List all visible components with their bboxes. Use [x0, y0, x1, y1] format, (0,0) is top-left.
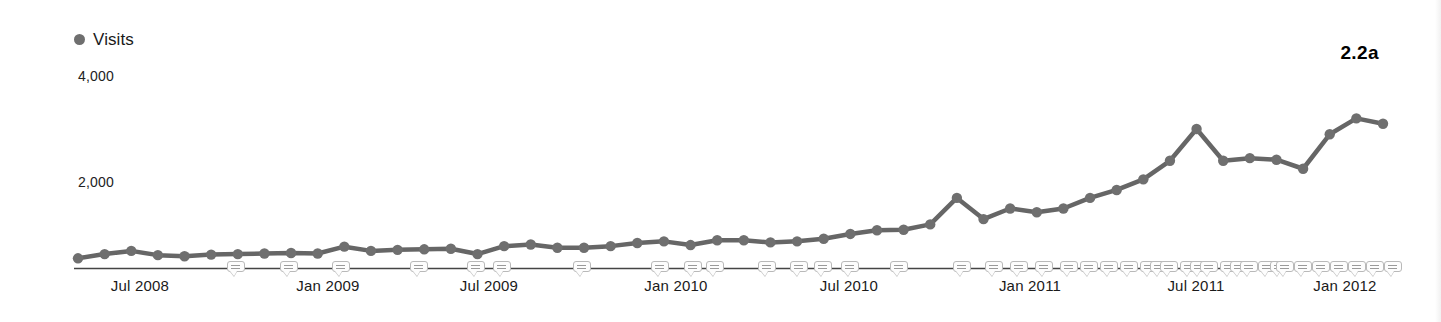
data-point[interactable] — [1378, 119, 1388, 129]
axis-annotation-marker[interactable] — [332, 261, 352, 276]
axis-annotation-marker[interactable] — [953, 261, 973, 276]
axis-annotation-marker[interactable] — [1240, 261, 1260, 276]
annotation-tail-icon — [817, 271, 824, 276]
data-point[interactable] — [765, 237, 775, 247]
annotation-tail-icon — [1123, 271, 1130, 276]
data-point[interactable] — [233, 249, 243, 259]
axis-annotation-marker[interactable] — [1312, 261, 1332, 276]
data-point[interactable] — [99, 249, 109, 259]
axis-annotation-marker[interactable] — [227, 261, 247, 276]
axis-annotation-marker[interactable] — [1366, 261, 1386, 276]
axis-annotation-marker[interactable] — [1060, 261, 1080, 276]
axis-annotation-marker[interactable] — [493, 261, 513, 276]
data-point[interactable] — [312, 248, 322, 258]
data-point[interactable] — [179, 251, 189, 261]
axis-annotation-marker[interactable] — [1080, 261, 1100, 276]
annotation-tail-icon — [1103, 271, 1110, 276]
axis-annotation-marker[interactable] — [467, 261, 487, 276]
axis-annotation-marker[interactable] — [1160, 261, 1180, 276]
data-point[interactable] — [1058, 203, 1068, 213]
data-point[interactable] — [153, 250, 163, 260]
data-point[interactable] — [819, 234, 829, 244]
data-point[interactable] — [1191, 124, 1201, 134]
axis-annotation-marker[interactable] — [1330, 261, 1350, 276]
axis-annotation-marker[interactable] — [1294, 261, 1314, 276]
data-point[interactable] — [392, 245, 402, 255]
axis-annotation-marker[interactable] — [1348, 261, 1368, 276]
data-point[interactable] — [526, 239, 536, 249]
data-point[interactable] — [978, 214, 988, 224]
annotation-tail-icon — [335, 271, 342, 276]
data-point[interactable] — [499, 241, 509, 251]
axis-annotation-marker[interactable] — [1010, 261, 1030, 276]
axis-annotation-marker[interactable] — [410, 261, 430, 276]
data-point[interactable] — [605, 241, 615, 251]
data-point[interactable] — [925, 219, 935, 229]
data-point[interactable] — [1325, 129, 1335, 139]
annotation-tail-icon — [1279, 271, 1286, 276]
data-point[interactable] — [126, 246, 136, 256]
data-point[interactable] — [872, 225, 882, 235]
data-point[interactable] — [1085, 193, 1095, 203]
data-point[interactable] — [1138, 174, 1148, 184]
data-point[interactable] — [579, 243, 589, 253]
data-point[interactable] — [1245, 153, 1255, 163]
axis-annotation-marker[interactable] — [814, 261, 834, 276]
data-point[interactable] — [206, 249, 216, 259]
x-axis-tick-jul-2010: Jul 2010 — [820, 277, 878, 294]
annotation-tail-icon — [1203, 271, 1210, 276]
annotation-tail-icon — [1223, 271, 1230, 276]
data-point[interactable] — [1351, 113, 1361, 123]
data-point[interactable] — [286, 248, 296, 258]
annotation-tail-icon — [893, 271, 900, 276]
data-point[interactable] — [685, 240, 695, 250]
data-point[interactable] — [1298, 164, 1308, 174]
axis-annotation-marker[interactable] — [1035, 261, 1055, 276]
data-point[interactable] — [1005, 203, 1015, 213]
data-point[interactable] — [1165, 156, 1175, 166]
data-point[interactable] — [898, 225, 908, 235]
axis-annotation-marker[interactable] — [280, 261, 300, 276]
visits-line-chart: Visits 2.2a 4,000 2,000 Jul 2008 Jan 200… — [0, 0, 1441, 322]
data-point[interactable] — [712, 235, 722, 245]
axis-annotation-marker[interactable] — [985, 261, 1005, 276]
axis-annotation-marker[interactable] — [1200, 261, 1220, 276]
axis-annotation-marker[interactable] — [1384, 261, 1404, 276]
data-point[interactable] — [1032, 207, 1042, 217]
axis-annotation-marker[interactable] — [573, 261, 593, 276]
x-axis-tick-jul-2008: Jul 2008 — [111, 277, 169, 294]
axis-annotation-marker[interactable] — [684, 261, 704, 276]
axis-annotation-marker[interactable] — [1120, 261, 1140, 276]
axis-annotation-marker[interactable] — [1100, 261, 1120, 276]
data-point[interactable] — [1218, 156, 1228, 166]
axis-annotation-marker[interactable] — [1276, 261, 1296, 276]
axis-annotation-marker[interactable] — [790, 261, 810, 276]
data-point[interactable] — [1111, 185, 1121, 195]
axis-annotation-marker[interactable] — [890, 261, 910, 276]
data-point[interactable] — [845, 229, 855, 239]
data-point[interactable] — [339, 241, 349, 251]
data-point[interactable] — [419, 244, 429, 254]
data-point[interactable] — [952, 193, 962, 203]
data-point[interactable] — [792, 236, 802, 246]
data-point[interactable] — [259, 248, 269, 258]
annotation-tail-icon — [654, 271, 661, 276]
annotation-tail-icon — [687, 271, 694, 276]
data-point[interactable] — [739, 235, 749, 245]
annotation-tail-icon — [956, 271, 963, 276]
data-point[interactable] — [472, 249, 482, 259]
axis-annotation-marker[interactable] — [758, 261, 778, 276]
axis-annotation-marker[interactable] — [706, 261, 726, 276]
data-point[interactable] — [632, 238, 642, 248]
annotation-tail-icon — [1193, 271, 1200, 276]
axis-annotation-marker[interactable] — [651, 261, 671, 276]
data-point[interactable] — [659, 236, 669, 246]
data-point[interactable] — [1271, 155, 1281, 165]
data-point[interactable] — [73, 253, 83, 263]
data-point[interactable] — [552, 243, 562, 253]
x-axis-tick-jan-2011: Jan 2011 — [999, 277, 1061, 294]
annotation-tail-icon — [1261, 271, 1268, 276]
data-point[interactable] — [446, 244, 456, 254]
axis-annotation-marker[interactable] — [841, 261, 861, 276]
data-point[interactable] — [366, 246, 376, 256]
